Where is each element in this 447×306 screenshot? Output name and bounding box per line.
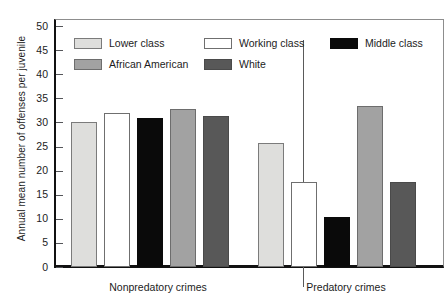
legend-label: Middle class bbox=[365, 38, 423, 49]
bar-chart: Annual mean number of offenses per juven… bbox=[0, 0, 447, 306]
bar-middle-class-nonpredatory bbox=[137, 118, 163, 267]
legend-item-working-class: Working class bbox=[204, 38, 304, 49]
y-axis-tick-label: 25 bbox=[26, 141, 48, 152]
bar-white-predatory bbox=[390, 182, 416, 267]
y-axis-tick bbox=[56, 243, 63, 244]
legend-label: Working class bbox=[239, 38, 304, 49]
y-axis-tick bbox=[56, 195, 63, 196]
y-axis-tick-label: 0 bbox=[26, 262, 48, 273]
legend-swatch-icon bbox=[330, 38, 358, 49]
bar-white-nonpredatory bbox=[203, 116, 229, 267]
legend-label: White bbox=[239, 59, 266, 70]
y-axis-tick-label: 45 bbox=[26, 45, 48, 56]
bar-lower-class-predatory bbox=[258, 143, 284, 267]
y-axis-tick-label: 5 bbox=[26, 237, 48, 248]
legend-swatch-icon bbox=[74, 38, 102, 49]
legend-item-african-american: African American bbox=[74, 59, 188, 70]
legend-item-white: White bbox=[204, 59, 266, 70]
legend-item-lower-class: Lower class bbox=[74, 38, 164, 49]
legend-swatch-icon bbox=[74, 59, 102, 70]
x-axis-label-predatory: Predatory crimes bbox=[250, 281, 442, 293]
y-axis-tick-label: 50 bbox=[26, 21, 48, 32]
chart-legend: Lower class Working class Middle class A… bbox=[74, 38, 434, 76]
y-axis-tick-label: 40 bbox=[26, 69, 48, 80]
x-axis-label-nonpredatory: Nonpredatory crimes bbox=[68, 281, 248, 293]
y-axis-tick bbox=[56, 267, 63, 268]
bar-african-american-nonpredatory bbox=[170, 109, 196, 267]
y-axis-tick bbox=[56, 171, 63, 172]
legend-swatch-icon bbox=[204, 38, 232, 49]
y-axis-tick bbox=[56, 98, 63, 99]
y-axis-tick-label: 30 bbox=[26, 117, 48, 128]
y-axis-tick-label: 20 bbox=[26, 165, 48, 176]
bar-middle-class-predatory bbox=[324, 217, 350, 267]
y-axis-tick-label: 15 bbox=[26, 189, 48, 200]
bar-working-class-nonpredatory bbox=[104, 113, 130, 267]
y-axis-tick-labels: 05101520253035404550 bbox=[22, 0, 48, 306]
y-axis-tick bbox=[56, 74, 63, 75]
y-axis-tick bbox=[56, 122, 63, 123]
bar-african-american-predatory bbox=[357, 106, 383, 267]
y-axis-tick bbox=[56, 147, 63, 148]
legend-swatch-icon bbox=[204, 59, 232, 70]
legend-label: African American bbox=[109, 59, 188, 70]
y-axis-tick bbox=[56, 50, 63, 51]
bar-lower-class-nonpredatory bbox=[71, 122, 97, 267]
bar-working-class-predatory bbox=[291, 182, 317, 267]
y-axis-tick-label: 35 bbox=[26, 93, 48, 104]
y-axis-tick-label: 10 bbox=[26, 213, 48, 224]
y-axis-tick bbox=[56, 219, 63, 220]
legend-label: Lower class bbox=[109, 38, 164, 49]
legend-item-middle-class: Middle class bbox=[330, 38, 423, 49]
y-axis-tick bbox=[56, 26, 63, 27]
